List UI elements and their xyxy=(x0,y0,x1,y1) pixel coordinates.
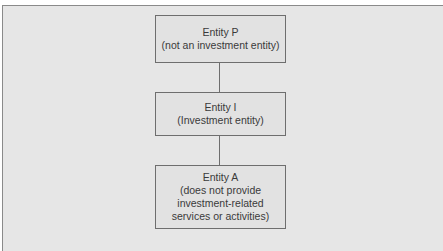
entity-a-title: Entity A xyxy=(156,171,285,184)
connector-p-i xyxy=(219,62,220,92)
entity-a-box: Entity A (does not provide investment-re… xyxy=(155,165,286,229)
entity-a-subtitle-line-1: (does not provide xyxy=(156,184,285,197)
entity-a-subtitle-line-2: investment-related xyxy=(156,197,285,210)
entity-i-box: Entity I (Investment entity) xyxy=(155,92,286,136)
entity-i-subtitle: (Investment entity) xyxy=(156,114,285,127)
entity-p-title: Entity P xyxy=(156,26,285,39)
entity-p-subtitle: (not an investment entity) xyxy=(156,39,285,52)
entity-p-box: Entity P (not an investment entity) xyxy=(155,15,286,63)
entity-i-title: Entity I xyxy=(156,101,285,114)
connector-i-a xyxy=(219,135,220,165)
entity-a-subtitle-line-3: services or activities) xyxy=(156,210,285,223)
